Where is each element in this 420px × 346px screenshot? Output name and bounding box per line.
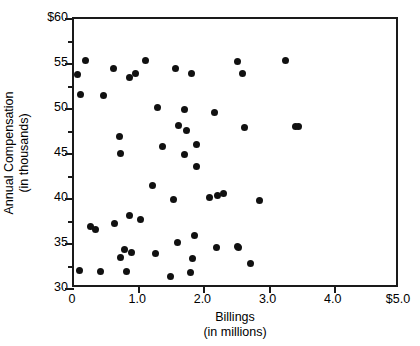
y-axis-minor-tick: [68, 131, 74, 133]
y-axis-title-line1: Annual Compensation: [2, 91, 17, 214]
data-point: [220, 190, 227, 197]
data-points-layer: [74, 19, 396, 285]
data-point: [187, 269, 194, 276]
y-axis-tick: [65, 288, 74, 290]
data-point: [132, 70, 139, 77]
data-point: [193, 163, 200, 170]
data-point: [152, 250, 159, 257]
x-axis-title-line2: (in millions): [72, 325, 398, 340]
x-axis-title: Billings (in millions): [72, 310, 398, 340]
data-point: [211, 109, 218, 116]
data-point: [128, 249, 135, 256]
y-axis-minor-tick: [68, 86, 74, 88]
data-point: [142, 57, 149, 64]
x-axis-tick-labels: 01.02.03.04.0$5.0: [72, 292, 398, 310]
x-axis-tick-label: 2.0: [194, 292, 211, 306]
y-axis-minor-tick: [68, 266, 74, 268]
data-point: [191, 232, 198, 239]
y-axis-tick-label: 55: [32, 56, 68, 69]
data-point: [149, 182, 156, 189]
y-axis-tick-label: 40: [32, 191, 68, 204]
x-axis-tick-label: 1.0: [128, 292, 145, 306]
data-point: [175, 122, 182, 129]
plot-area: [72, 17, 398, 287]
x-axis-tick-label: 3.0: [259, 292, 276, 306]
data-point: [174, 239, 181, 246]
data-point: [247, 260, 254, 267]
data-point: [123, 268, 130, 275]
y-axis-tick-labels: 303540455055$60: [30, 0, 68, 346]
data-point: [282, 57, 289, 64]
y-axis-tick-label: 50: [32, 101, 68, 114]
data-point: [76, 267, 83, 274]
data-point: [126, 212, 133, 219]
data-point: [74, 71, 81, 78]
y-axis-tick-label: 35: [32, 236, 68, 249]
y-axis-tick: [65, 198, 74, 200]
y-axis-minor-tick: [68, 176, 74, 178]
data-point: [256, 197, 263, 204]
data-point: [117, 150, 124, 157]
data-point: [154, 104, 161, 111]
data-point: [189, 255, 196, 262]
data-point: [193, 141, 200, 148]
data-point: [295, 123, 302, 130]
data-point: [82, 57, 89, 64]
x-axis-title-line1: Billings: [72, 310, 398, 325]
y-axis-tick-label: $60: [32, 11, 68, 24]
y-axis-tick: [65, 108, 74, 110]
data-point: [181, 106, 188, 113]
x-axis-tick-label: 0: [69, 292, 76, 306]
data-point: [206, 194, 213, 201]
data-point: [111, 220, 118, 227]
data-point: [159, 143, 166, 150]
scatter-chart: Annual Compensation (in thousands) 30354…: [0, 0, 420, 346]
x-axis-tick-label: 4.0: [324, 292, 341, 306]
x-axis-tick-label: $5.0: [386, 292, 410, 306]
data-point: [213, 244, 220, 251]
data-point: [234, 243, 241, 250]
data-point: [77, 91, 84, 98]
data-point: [137, 216, 144, 223]
data-point: [117, 254, 124, 261]
y-axis-title: Annual Compensation (in thousands): [0, 17, 34, 288]
data-point: [97, 268, 104, 275]
data-point: [116, 133, 123, 140]
data-point: [241, 124, 248, 131]
y-axis-tick: [65, 243, 74, 245]
y-axis-tick-label: 30: [32, 281, 68, 294]
data-point: [188, 70, 195, 77]
data-point: [234, 58, 241, 65]
data-point: [110, 65, 117, 72]
data-point: [239, 70, 246, 77]
data-point: [172, 65, 179, 72]
data-point: [100, 92, 107, 99]
data-point: [183, 127, 190, 134]
data-point: [181, 151, 188, 158]
data-point: [167, 273, 174, 280]
data-point: [170, 196, 177, 203]
data-point: [92, 226, 99, 233]
y-axis-tick: [65, 153, 74, 155]
y-axis-minor-tick: [68, 41, 74, 43]
y-axis-tick: [65, 18, 74, 20]
y-axis-tick: [65, 63, 74, 65]
y-axis-tick-label: 45: [32, 146, 68, 159]
y-axis-minor-tick: [68, 221, 74, 223]
